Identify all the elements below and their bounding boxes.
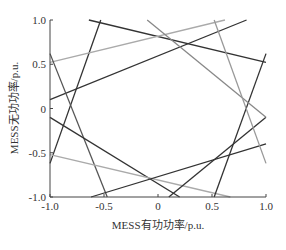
axes [50,20,266,197]
line-3 [50,20,225,62]
x-tick-label: 0.5 [205,200,219,212]
line-5 [50,54,107,197]
line-7 [50,155,230,197]
line-10 [169,117,266,197]
y-tick-label: 0 [41,103,47,115]
y-tick-label: 0.5 [32,58,46,70]
x-tick-label: -0.5 [95,200,113,212]
y-tick-label: 1.0 [32,14,46,26]
x-axis-title: MESS有功功率/p.u. [112,218,205,231]
line-1 [89,20,266,62]
line-11 [147,20,266,117]
line-4 [50,20,247,100]
y-tick-label: -0.5 [29,147,47,159]
x-tick-label: 0 [155,200,161,212]
line-6 [50,117,180,197]
capability-chart: -1.0-0.500.51.0 1.00.50-0.5-1.0 MESS有功功率… [0,0,286,250]
line-12 [214,20,266,163]
line-9 [214,54,266,197]
line-2 [50,20,101,163]
y-ticks: 1.00.50-0.5-1.0 [29,14,53,203]
x-tick-label: 1.0 [259,200,273,212]
y-tick-label: -1.0 [29,191,47,203]
y-axis-title: MESS无功功率/p.u. [7,62,20,155]
plot-lines [50,20,266,197]
